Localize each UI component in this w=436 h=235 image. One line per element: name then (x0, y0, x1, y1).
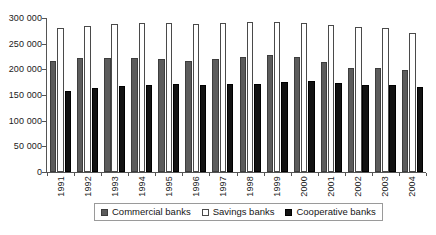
x-axis-tick-mark (155, 173, 156, 176)
bar-savings (139, 23, 145, 172)
legend-item[interactable]: Commercial banks (101, 207, 191, 217)
x-axis-tick-mark (291, 173, 292, 176)
bar-cooperative (92, 88, 98, 172)
bar-group (318, 18, 345, 172)
bar-commercial (77, 58, 83, 172)
x-axis-tick-label: 2004 (407, 176, 417, 197)
x-axis-tick-mark (345, 173, 346, 176)
bar-commercial (375, 68, 381, 172)
bar-savings (274, 22, 280, 172)
y-axis-tick-mark (42, 44, 46, 45)
bar-group (182, 18, 209, 172)
bars-area (47, 18, 426, 172)
bar-commercial (402, 70, 408, 172)
bar-group (399, 18, 426, 172)
bar-savings (220, 23, 226, 172)
y-axis-tick-mark (42, 69, 46, 70)
bar-commercial (158, 59, 164, 172)
x-axis-tick-mark (101, 173, 102, 176)
legend-swatch-savings-icon (202, 209, 209, 216)
bar-cooperative (200, 85, 206, 172)
bar-savings (328, 25, 334, 172)
bar-group (291, 18, 318, 172)
bar-cooperative (308, 81, 314, 172)
bar-commercial (185, 61, 191, 172)
legend-item[interactable]: Cooperative banks (285, 207, 375, 217)
x-axis-tick-label: 1999 (272, 176, 282, 197)
x-axis-tick-mark (372, 173, 373, 176)
bar-group (237, 18, 264, 172)
y-axis-tick-mark (42, 95, 46, 96)
legend-label: Commercial banks (112, 207, 191, 217)
bar-commercial (104, 58, 110, 172)
legend-swatch-commercial-icon (101, 209, 108, 216)
bar-cooperative (65, 91, 71, 172)
bar-group (264, 18, 291, 172)
x-axis-tick-mark (128, 173, 129, 176)
y-axis-tick-mark (42, 146, 46, 147)
x-axis-tick-mark (182, 173, 183, 176)
x-axis-tick-mark (264, 173, 265, 176)
bar-cooperative (227, 84, 233, 172)
x-axis-tick-mark (47, 173, 48, 176)
bar-commercial (267, 55, 273, 172)
bar-savings (247, 22, 253, 172)
x-axis-tick-label: 1994 (137, 176, 147, 197)
x-axis-tick-label: 1995 (164, 176, 174, 197)
plot-area: 050 000100 000150 000200 000250 000300 0… (0, 0, 436, 185)
bar-savings (301, 23, 307, 172)
x-axis-tick-mark (426, 173, 427, 176)
y-axis-labels: 050 000100 000150 000200 000250 000300 0… (0, 0, 46, 185)
bar-commercial (131, 58, 137, 172)
bar-cooperative (335, 83, 341, 172)
y-axis-tick-label: 50 000 (14, 141, 42, 151)
bar-group (47, 18, 74, 172)
bar-savings (409, 33, 415, 172)
y-axis-tick-mark (42, 121, 46, 122)
y-axis-tick-label: 100 000 (9, 116, 42, 126)
bar-group (74, 18, 101, 172)
x-axis-tick-mark (209, 173, 210, 176)
bar-savings (193, 24, 199, 172)
x-axis-tick-label: 1996 (191, 176, 201, 197)
x-axis-tick-label: 1992 (83, 176, 93, 197)
x-axis-tick-label: 1991 (56, 176, 66, 197)
x-axis-tick-label: 2003 (380, 176, 390, 197)
bar-cooperative (417, 87, 423, 172)
x-axis-tick-label: 2002 (353, 176, 363, 197)
bar-commercial (240, 57, 246, 173)
x-axis-tick-label: 2001 (326, 176, 336, 197)
bar-group (372, 18, 399, 172)
bar-commercial (321, 62, 327, 172)
bar-commercial (294, 57, 300, 173)
bar-savings (382, 28, 388, 172)
y-axis-tick-mark (42, 18, 46, 19)
legend-swatch-cooperative-icon (285, 209, 292, 216)
bar-cooperative (362, 85, 368, 172)
x-axis-tick-mark (318, 173, 319, 176)
bar-group (101, 18, 128, 172)
bar-savings (166, 23, 172, 172)
bar-savings (111, 24, 117, 172)
bar-commercial (212, 59, 218, 172)
bar-group (209, 18, 236, 172)
x-axis-tick-label: 1997 (218, 176, 228, 197)
bar-cooperative (146, 85, 152, 172)
y-axis-tick-label: 300 000 (9, 13, 42, 23)
bar-group (155, 18, 182, 172)
bar-cooperative (281, 82, 287, 172)
y-axis-tick-label: 250 000 (9, 39, 42, 49)
bar-commercial (348, 68, 354, 172)
y-axis-tick-mark (42, 172, 46, 173)
bar-chart: 050 000100 000150 000200 000250 000300 0… (0, 0, 436, 235)
y-axis-tick-label: 150 000 (9, 90, 42, 100)
x-axis-tick-mark (74, 173, 75, 176)
legend-label: Cooperative banks (296, 207, 375, 217)
legend-item[interactable]: Savings banks (202, 207, 275, 217)
x-axis-tick-label: 1998 (245, 176, 255, 197)
bar-cooperative (119, 86, 125, 172)
bar-savings (84, 26, 90, 172)
x-axis-tick-label: 1993 (110, 176, 120, 197)
bar-group (128, 18, 155, 172)
bar-cooperative (389, 85, 395, 172)
